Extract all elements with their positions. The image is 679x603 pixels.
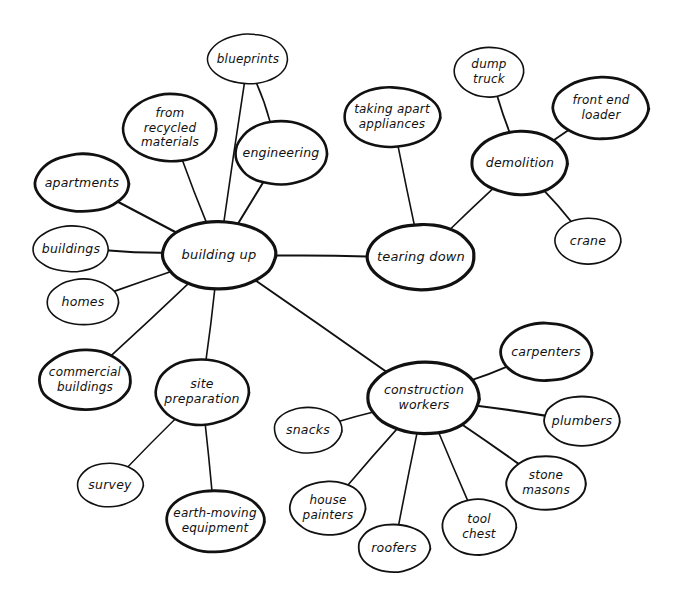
node-outline-survey <box>78 463 144 507</box>
edge-building-up-to-apartments <box>118 202 176 233</box>
edge-building-up-to-commercial-buildings <box>111 284 188 356</box>
edge-construction-workers-to-carpenters <box>472 367 506 380</box>
edge-building-up-to-site-preparation <box>206 289 215 359</box>
edge-demolition-to-dump-truck <box>497 96 509 132</box>
node-tearing-down[interactable]: tearing down <box>367 225 474 290</box>
node-outline-dump-truck <box>454 47 524 97</box>
node-outline-front-end-loader <box>553 77 649 139</box>
node-outline-building-up <box>163 222 277 289</box>
node-apartments[interactable]: apartments <box>35 154 129 212</box>
node-outline-homes <box>47 279 118 325</box>
node-outline-house-painters <box>290 481 366 535</box>
node-taking-apart[interactable]: taking apartappliances <box>345 87 441 147</box>
node-homes[interactable]: homes <box>47 279 118 325</box>
node-construction-workers[interactable]: constructionworkers <box>368 362 480 433</box>
node-outline-buildings <box>33 226 108 272</box>
node-carpenters[interactable]: carpenters <box>501 323 592 381</box>
node-engineering[interactable]: engineering <box>236 121 328 184</box>
mindmap-svg: building uptearing downconstructionworke… <box>0 0 679 603</box>
edge-demolition-to-crane <box>544 191 571 222</box>
node-outline-tool-chest <box>442 499 516 555</box>
node-stone-masons[interactable]: stonemasons <box>506 456 586 510</box>
node-outline-blueprints <box>207 34 287 84</box>
node-outline-stone-masons <box>506 456 586 510</box>
edge-construction-workers-to-plumbers <box>479 406 545 416</box>
edge-building-up-to-tearing-down <box>276 255 367 256</box>
edge-tearing-down-to-taking-apart <box>398 147 414 225</box>
edge-construction-workers-to-snacks <box>340 412 373 421</box>
edge-building-up-to-construction-workers <box>256 281 386 372</box>
edge-demolition-to-front-end-loader <box>554 131 568 141</box>
edge-construction-workers-to-tool-chest <box>439 433 468 501</box>
node-plumbers[interactable]: plumbers <box>544 396 620 445</box>
node-demolition[interactable]: demolition <box>472 131 568 194</box>
edge-building-up-to-buildings <box>109 251 162 253</box>
node-building-up[interactable]: building up <box>163 222 277 289</box>
node-outline-snacks <box>274 407 342 453</box>
edge-construction-workers-to-roofers <box>399 434 417 525</box>
edge-building-up-to-from-recycled <box>183 161 207 222</box>
node-earth-moving[interactable]: earth-movingequipment <box>167 491 265 552</box>
node-blueprints[interactable]: blueprints <box>207 34 287 84</box>
node-survey[interactable]: survey <box>78 463 144 507</box>
node-site-preparation[interactable]: sitepreparation <box>156 360 250 426</box>
nodes-layer: building uptearing downconstructionworke… <box>33 34 649 572</box>
edge-building-up-to-engineering <box>238 183 263 224</box>
node-outline-commercial-buildings <box>39 350 130 410</box>
node-outline-demolition <box>472 131 568 194</box>
node-outline-plumbers <box>544 396 620 445</box>
edge-tearing-down-to-demolition <box>450 189 492 229</box>
node-outline-engineering <box>236 121 328 184</box>
node-dump-truck[interactable]: dumptruck <box>454 47 524 97</box>
edge-construction-workers-to-house-painters <box>348 429 397 485</box>
node-outline-carpenters <box>501 323 592 381</box>
edge-site-preparation-to-survey <box>128 419 175 467</box>
edge-building-up-to-homes <box>115 272 170 291</box>
node-house-painters[interactable]: housepainters <box>290 481 366 535</box>
node-outline-construction-workers <box>368 362 480 433</box>
node-outline-site-preparation <box>156 360 250 426</box>
edge-construction-workers-to-stone-masons <box>462 425 518 464</box>
node-outline-earth-moving <box>167 491 265 552</box>
node-front-end-loader[interactable]: front endloader <box>553 77 649 139</box>
node-outline-crane <box>555 218 621 264</box>
node-from-recycled[interactable]: fromrecycledmaterials <box>123 94 216 161</box>
node-tool-chest[interactable]: toolchest <box>442 499 516 555</box>
node-commercial-buildings[interactable]: commercialbuildings <box>39 350 130 410</box>
node-roofers[interactable]: roofers <box>359 525 431 573</box>
edge-site-preparation-to-earth-moving <box>205 425 212 490</box>
node-outline-taking-apart <box>345 87 441 147</box>
node-buildings[interactable]: buildings <box>33 226 108 272</box>
node-outline-apartments <box>35 154 129 212</box>
node-outline-roofers <box>359 525 431 573</box>
node-crane[interactable]: crane <box>555 218 621 264</box>
node-outline-tearing-down <box>367 225 474 290</box>
edge-engineering-to-blueprints <box>257 83 271 122</box>
mindmap-canvas: building uptearing downconstructionworke… <box>0 0 679 603</box>
node-outline-from-recycled <box>123 94 216 161</box>
node-snacks[interactable]: snacks <box>274 407 342 453</box>
